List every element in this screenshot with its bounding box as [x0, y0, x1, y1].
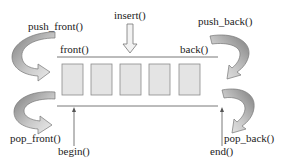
end-label: end() [210, 145, 234, 158]
pop-back-label: pop_back() [224, 132, 274, 145]
push-front-arrow-icon [12, 32, 55, 81]
push-back-label: push_back() [198, 15, 253, 28]
begin-arrow-icon [72, 107, 76, 146]
back-label: back() [180, 43, 208, 56]
begin-label: begin() [58, 145, 90, 158]
insert-arrow-icon [123, 24, 137, 53]
deque-diagram: push_front() front() insert() push_back(… [0, 0, 283, 162]
deque-elements [62, 64, 200, 95]
front-label: front() [60, 43, 89, 56]
element-box-1 [62, 64, 83, 95]
element-box-2 [91, 64, 112, 95]
element-box-5 [179, 64, 200, 95]
pop-back-arrow-icon [222, 89, 254, 133]
insert-label: insert() [114, 9, 146, 22]
push-front-label: push_front() [28, 20, 83, 33]
pop-front-label: pop_front() [10, 132, 61, 145]
element-box-3 [120, 64, 141, 95]
element-box-4 [149, 64, 170, 95]
pop-front-arrow-icon [14, 92, 55, 134]
